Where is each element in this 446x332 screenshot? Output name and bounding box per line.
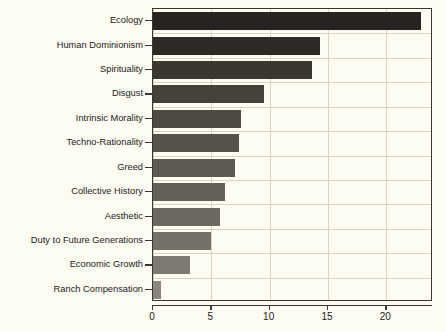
y-axis-tick bbox=[145, 216, 152, 217]
horizontal-gridline bbox=[153, 278, 431, 279]
x-axis-tick-0 bbox=[152, 305, 153, 310]
x-axis-line bbox=[152, 305, 432, 306]
bar-ranch-compensation bbox=[153, 281, 161, 299]
y-axis-label-greed: Greed bbox=[0, 162, 143, 172]
x-axis-ticklabel-0: 0 bbox=[137, 311, 167, 323]
y-axis-label-ranch-compensation: Ranch Compensation bbox=[0, 284, 143, 294]
x-axis-tick-5 bbox=[210, 305, 211, 310]
bar-aesthetic bbox=[153, 208, 220, 226]
bar-intrinsic-morality bbox=[153, 110, 241, 128]
vertical-gridline-15 bbox=[328, 9, 329, 300]
y-axis-label-ecology: Ecology bbox=[0, 15, 143, 25]
y-axis-tick bbox=[145, 191, 152, 192]
x-axis-ticklabel-20: 20 bbox=[370, 311, 400, 323]
bar-spirituality bbox=[153, 61, 312, 79]
y-axis-tick bbox=[145, 167, 152, 168]
y-axis-tick bbox=[145, 264, 152, 265]
bar-chart: EcologyHuman DominionismSpiritualityDisg… bbox=[0, 0, 446, 332]
bar-ecology bbox=[153, 12, 421, 30]
y-axis-label-duty-to-future-generations: Duty to Future Generations bbox=[0, 235, 143, 245]
horizontal-gridline bbox=[153, 58, 431, 59]
horizontal-gridline bbox=[153, 107, 431, 108]
horizontal-gridline bbox=[153, 156, 431, 157]
horizontal-gridline bbox=[153, 33, 431, 34]
bar-human-dominionism bbox=[153, 37, 320, 55]
y-axis-tick bbox=[145, 20, 152, 21]
x-axis-tick-20 bbox=[385, 305, 386, 310]
y-axis-label-collective-history: Collective History bbox=[0, 186, 143, 196]
y-axis-label-aesthetic: Aesthetic bbox=[0, 211, 143, 221]
y-axis-tick bbox=[145, 69, 152, 70]
x-axis-tick-10 bbox=[269, 305, 270, 310]
y-axis-label-disgust: Disgust bbox=[0, 88, 143, 98]
bar-collective-history bbox=[153, 183, 225, 201]
y-axis-tick bbox=[145, 45, 152, 46]
horizontal-gridline bbox=[153, 229, 431, 230]
x-axis-ticklabel-10: 10 bbox=[254, 311, 284, 323]
x-axis-ticklabel-5: 5 bbox=[195, 311, 225, 323]
horizontal-gridline bbox=[153, 180, 431, 181]
bar-disgust bbox=[153, 85, 264, 103]
bar-techno-rationality bbox=[153, 134, 239, 152]
x-axis-ticklabel-15: 15 bbox=[312, 311, 342, 323]
y-axis-label-techno-rationality: Techno-Rationality bbox=[0, 137, 143, 147]
horizontal-gridline bbox=[153, 131, 431, 132]
horizontal-gridline bbox=[153, 82, 431, 83]
y-axis-label-economic-growth: Economic Growth bbox=[0, 259, 143, 269]
y-axis-label-spirituality: Spirituality bbox=[0, 64, 143, 74]
bar-greed bbox=[153, 159, 235, 177]
horizontal-gridline bbox=[153, 204, 431, 205]
horizontal-gridline bbox=[153, 253, 431, 254]
vertical-gridline-20 bbox=[386, 9, 387, 300]
y-axis-label-intrinsic-morality: Intrinsic Morality bbox=[0, 113, 143, 123]
y-axis-tick bbox=[145, 289, 152, 290]
bar-economic-growth bbox=[153, 256, 190, 274]
y-axis-label-human-dominionism: Human Dominionism bbox=[0, 40, 143, 50]
x-axis-tick-15 bbox=[327, 305, 328, 310]
plot-area bbox=[152, 8, 432, 301]
bar-duty-to-future-generations bbox=[153, 232, 211, 250]
y-axis-tick bbox=[145, 93, 152, 94]
y-axis-tick bbox=[145, 240, 152, 241]
y-axis-tick bbox=[145, 142, 152, 143]
y-axis-tick bbox=[145, 118, 152, 119]
